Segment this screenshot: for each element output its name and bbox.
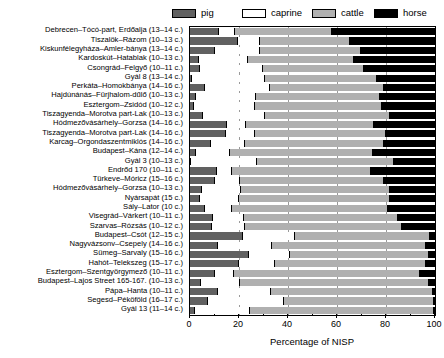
y-axis-label: Segesd–Péköföld (16–17 c.)	[87, 296, 183, 304]
bar-segment-caprine	[219, 28, 235, 35]
plot-area	[189, 26, 436, 316]
bar-row	[190, 297, 435, 304]
bar-segment-horse	[394, 158, 435, 165]
bar-segment-caprine	[196, 93, 256, 100]
bar-segment-caprine	[249, 251, 291, 258]
bar-row	[190, 140, 435, 147]
x-tick-label-80: 80	[370, 319, 400, 329]
y-axis-label: Nagyvázsonv–Csepely (14–16 c.)	[69, 240, 183, 248]
bar-segment-pig	[190, 232, 243, 239]
y-axis-label: Perkáta–Homokbánya (14–16 c.)	[72, 82, 183, 90]
bar-segment-caprine	[191, 158, 257, 165]
bar-segment-pig	[190, 279, 201, 286]
bar-segment-horse	[434, 307, 435, 314]
x-tick-minor-50	[312, 314, 313, 316]
bar-segment-caprine	[238, 37, 260, 44]
bar-row	[190, 158, 435, 165]
bar-segment-horse	[388, 205, 435, 212]
y-axis-label: Budapest–Kána (12–14 c.)	[93, 147, 183, 155]
x-tick-100	[434, 314, 435, 318]
bar-segment-pig	[190, 177, 215, 184]
bar-segment-horse	[433, 288, 435, 295]
bar-segment-horse	[434, 297, 435, 304]
bar-segment-caprine	[213, 214, 244, 221]
bar-segment-cattle	[265, 75, 378, 82]
bar-row	[190, 102, 435, 109]
bar-row	[190, 93, 435, 100]
bar-segment-horse	[384, 84, 435, 91]
legend-item-caprine: caprine	[242, 6, 302, 20]
y-axis-label: Gyál 3 (10–13 c.)	[125, 157, 183, 165]
bar-row	[190, 177, 435, 184]
bar-segment-cattle	[295, 232, 430, 239]
bar-segment-pig	[190, 65, 200, 72]
bar-row	[190, 279, 435, 286]
y-axis-label: Pápa–Hanta (10–11 c.)	[105, 287, 183, 295]
bar-segment-horse	[354, 56, 435, 63]
bar-row	[190, 242, 435, 249]
bar-segment-cattle	[245, 140, 383, 147]
bar-segment-horse	[429, 251, 435, 258]
bar-segment-horse	[332, 28, 435, 35]
bar-segment-caprine	[200, 65, 264, 72]
bar-segment-cattle	[284, 297, 433, 304]
y-axis-label: Esztergom–Zsidód (10–12 c.)	[83, 101, 183, 109]
bar-row	[190, 251, 435, 258]
bar-segment-cattle	[246, 121, 373, 128]
x-tick-40	[287, 314, 288, 318]
bar-row	[190, 75, 435, 82]
x-tick-60	[336, 314, 337, 318]
bar-segment-caprine	[194, 102, 255, 109]
bar-segment-pig	[190, 121, 227, 128]
bar-row	[190, 28, 435, 35]
bar-segment-horse	[380, 93, 435, 100]
bar-segment-pig	[190, 47, 215, 54]
bar-segment-cattle	[230, 149, 372, 156]
legend-label-caprine: caprine	[271, 8, 302, 18]
bar-segment-horse	[373, 149, 435, 156]
bar-segment-horse	[382, 102, 435, 109]
bar-segment-horse	[390, 112, 435, 119]
bar-segment-cattle	[265, 112, 390, 119]
bar-segment-horse	[384, 177, 435, 184]
y-axis-label: Hódmezővásárhely–Gorzsa (14–16 c.)	[53, 119, 183, 127]
bar-segment-horse	[420, 270, 435, 277]
bar-row	[190, 307, 435, 314]
bar-segment-cattle	[255, 102, 382, 109]
bar-segment-cattle	[257, 158, 394, 165]
bar-segment-caprine	[192, 75, 264, 82]
bar-segment-caprine	[217, 167, 232, 174]
bar-segment-caprine	[203, 112, 264, 119]
bar-row	[190, 47, 435, 54]
y-axis-label: Tiszagyenda–Morotva part-Lak (10–13 c.)	[42, 110, 183, 118]
bar-segment-pig	[190, 260, 239, 267]
bar-segment-horse	[390, 186, 435, 193]
x-tick-label-60: 60	[321, 319, 351, 329]
y-axis-label: Nyársapát (15 c.)	[125, 194, 183, 202]
bar-segment-cattle	[241, 186, 389, 193]
bar-row	[190, 84, 435, 91]
bar-segment-horse	[398, 214, 435, 221]
bar-segment-pig	[190, 112, 203, 119]
chart-legend: pigcaprinecattlehorse	[0, 4, 444, 22]
y-axis-label: Hódmezővásárhely–Gorzsa (10–13 c.)	[53, 184, 183, 192]
bar-segment-horse	[390, 195, 435, 202]
bar-segment-caprine	[227, 121, 247, 128]
bar-segment-caprine	[196, 149, 230, 156]
chart-figure: pigcaprinecattlehorse Debrecen–Tócó-part…	[0, 0, 444, 358]
bar-segment-pig	[190, 130, 226, 137]
bar-row	[190, 214, 435, 221]
bar-segment-caprine	[215, 270, 235, 277]
bar-row	[190, 205, 435, 212]
bar-row	[190, 195, 435, 202]
bar-segment-horse	[374, 121, 435, 128]
y-axis-label: Tiszagyenda–Morotva part-Lak (14–16 c.)	[42, 129, 183, 137]
bar-segment-pig	[190, 288, 218, 295]
bar-segment-cattle	[250, 307, 434, 314]
bar-segment-cattle	[260, 37, 351, 44]
legend-item-cattle: cattle	[312, 6, 364, 20]
bar-segment-cattle	[260, 47, 362, 54]
bar-segment-caprine	[243, 232, 296, 239]
bar-row	[190, 130, 435, 137]
bar-segment-pig	[190, 223, 212, 230]
